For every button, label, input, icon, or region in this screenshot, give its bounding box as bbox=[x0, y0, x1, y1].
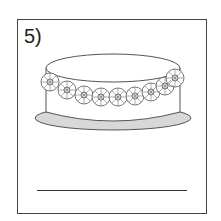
answer-line[interactable] bbox=[37, 190, 187, 191]
cake-icon bbox=[0, 0, 221, 221]
